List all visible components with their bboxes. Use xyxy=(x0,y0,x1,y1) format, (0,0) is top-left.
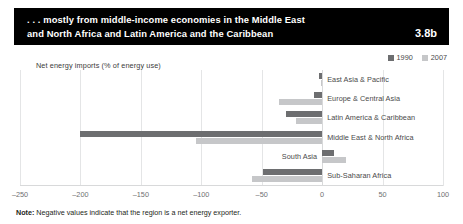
note-text: Negative values indicate that the region… xyxy=(34,208,241,217)
chart-title: Net energy imports (% of energy use) xyxy=(36,61,161,70)
bar-2007 xyxy=(196,138,322,144)
bar-2007 xyxy=(279,99,323,105)
x-tick-100: 100 xyxy=(437,190,449,199)
x-tick--100: –100 xyxy=(193,190,209,199)
x-tick--250: –250 xyxy=(12,190,28,199)
bar-2007 xyxy=(321,80,322,86)
legend-item-2007: 2007 xyxy=(422,53,447,62)
chart-row: Middle East & North Africa xyxy=(20,128,443,147)
category-label: South Asia xyxy=(282,152,317,161)
category-label: Europe & Central Asia xyxy=(327,94,400,103)
legend-item-1990: 1990 xyxy=(388,53,413,62)
figure-number: 3.8b xyxy=(415,27,437,39)
x-tick-50: 50 xyxy=(379,190,387,199)
legend-label-1990: 1990 xyxy=(397,53,413,62)
gridline-100 xyxy=(443,70,444,186)
chart-note: Note: Negative values indicate that the … xyxy=(16,208,241,217)
chart-row: Europe & Central Asia xyxy=(20,89,443,108)
x-tick--150: –150 xyxy=(133,190,149,199)
note-label: Note: xyxy=(16,208,34,217)
chart-legend: 1990 2007 xyxy=(388,53,447,62)
header-banner: . . . mostly from middle-income economie… xyxy=(14,8,449,45)
legend-swatch-1990 xyxy=(388,55,394,61)
chart-row: Sub-Saharan Africa xyxy=(20,167,443,186)
chart-row: South Asia xyxy=(20,147,443,166)
chart-row: East Asia & Pacific xyxy=(20,70,443,89)
x-axis-tick-labels: –250–200–150–100–50050100 xyxy=(20,190,443,202)
bar-2007 xyxy=(252,176,322,182)
banner-title-line-2: and North Africa and Latin America and t… xyxy=(27,27,357,41)
bar-2007 xyxy=(296,118,323,124)
banner-title: . . . mostly from middle-income economie… xyxy=(27,13,357,40)
legend-swatch-2007 xyxy=(422,55,428,61)
bar-2007 xyxy=(322,157,346,163)
category-label: East Asia & Pacific xyxy=(327,75,389,84)
category-label: Middle East & North Africa xyxy=(327,133,413,142)
chart-row: Latin America & Caribbean xyxy=(20,109,443,128)
x-tick--50: –50 xyxy=(256,190,268,199)
bar-1990 xyxy=(286,111,322,117)
bar-1990 xyxy=(263,169,322,175)
category-label: Sub-Saharan Africa xyxy=(327,171,391,180)
legend-label-2007: 2007 xyxy=(431,53,447,62)
x-tick--200: –200 xyxy=(72,190,88,199)
bar-1990 xyxy=(314,92,322,98)
x-tick-0: 0 xyxy=(320,190,324,199)
bar-1990 xyxy=(80,131,322,137)
banner-title-line-1: . . . mostly from middle-income economie… xyxy=(27,13,357,27)
bar-1990 xyxy=(322,150,334,156)
category-label: Latin America & Caribbean xyxy=(327,113,415,122)
chart-plot-area: East Asia & PacificEurope & Central Asia… xyxy=(20,70,443,186)
bar-1990 xyxy=(319,73,323,79)
